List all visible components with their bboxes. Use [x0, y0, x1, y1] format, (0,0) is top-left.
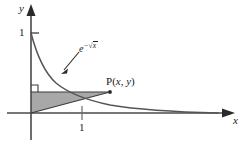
radical-overbar — [93, 41, 98, 42]
right-angle-marker — [31, 85, 38, 92]
figure-container: y x 1 1 e−√x P(x, y) — [0, 0, 245, 147]
curve-label-exponent: −√x — [83, 41, 96, 50]
curve-equation-label: e−√x — [79, 44, 96, 54]
radical-sign-icon: √x — [89, 41, 96, 50]
point-p-marker — [108, 90, 112, 94]
curve-label-leader-line — [64, 52, 79, 70]
point-p-label: P(x, y) — [106, 76, 135, 87]
radicand: x — [93, 41, 96, 50]
y-axis-label: y — [19, 3, 24, 14]
y-axis-arrowhead — [27, 4, 36, 16]
y-tick-label-1: 1 — [19, 27, 25, 38]
x-tick-label-1: 1 — [79, 122, 85, 133]
figure-canvas — [0, 0, 245, 147]
x-axis-label: x — [233, 115, 238, 126]
point-close-paren: ) — [131, 75, 135, 87]
